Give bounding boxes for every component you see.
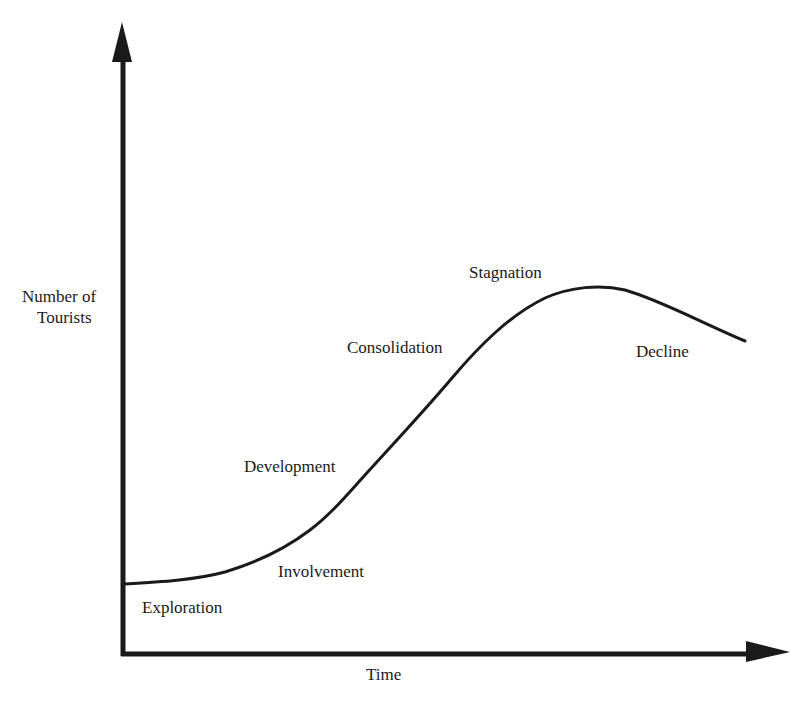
stage-label-involvement: Involvement xyxy=(278,562,364,581)
y-axis xyxy=(112,22,132,656)
stage-label-decline: Decline xyxy=(636,342,689,361)
y-axis-arrow-icon xyxy=(112,22,132,62)
y-axis-label-line1: Number of xyxy=(22,287,96,306)
x-axis-arrow-icon xyxy=(746,641,790,662)
stage-label-development: Development xyxy=(244,457,336,476)
x-axis-label: Time xyxy=(366,665,401,684)
diagram-canvas: Number of Tourists Time Exploration Invo… xyxy=(0,0,807,706)
y-axis-label-line2: Tourists xyxy=(37,308,92,327)
life-cycle-curve xyxy=(125,287,745,584)
x-axis xyxy=(121,641,790,662)
stage-label-exploration: Exploration xyxy=(142,598,223,617)
stage-label-consolidation: Consolidation xyxy=(347,338,443,357)
stage-label-stagnation: Stagnation xyxy=(469,263,542,282)
tourism-life-cycle-diagram: Number of Tourists Time Exploration Invo… xyxy=(0,0,807,706)
